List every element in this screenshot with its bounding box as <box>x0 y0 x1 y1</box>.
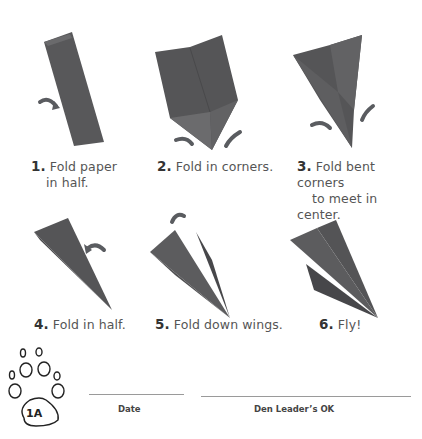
badge-label: 1A <box>26 407 42 420</box>
date-signature-line <box>89 394 184 395</box>
step-4-caption: 4. Fold in half. <box>34 316 126 333</box>
step-3-caption: 3. Fold bent corners to meet in center. <box>297 158 422 223</box>
step-2-caption: 2. Fold in corners. <box>157 158 273 175</box>
leader-ok-label: Den Leader’s OK <box>254 404 334 414</box>
step-5-caption: 5. Fold down wings. <box>155 316 283 333</box>
step-1-illustration <box>40 32 104 146</box>
step-6-illustration <box>290 220 378 318</box>
step-4-illustration <box>34 218 112 310</box>
step-1-caption: 1. Fold paper in half. <box>31 158 117 191</box>
date-label: Date <box>118 404 141 414</box>
step-3-illustration <box>293 35 373 148</box>
step-5-illustration <box>150 215 230 318</box>
leader-signature-line <box>201 396 411 397</box>
step-2-illustration <box>155 35 240 150</box>
step-6-caption: 6. Fly! <box>319 316 361 333</box>
